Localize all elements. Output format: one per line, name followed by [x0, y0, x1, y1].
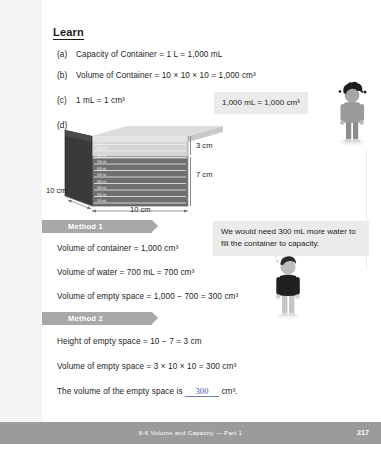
learn-item-b-label: (b)	[57, 71, 76, 80]
method-2-banner: Method 2	[42, 312, 152, 325]
equivalence-callout: 1,000 mL = 1,000 cm³	[214, 92, 308, 114]
answer-prefix: The volume of the empty space is	[57, 387, 183, 396]
svg-text:700 mL: 700 mL	[97, 160, 107, 164]
svg-text:500 mL: 500 mL	[97, 173, 107, 177]
learn-item-a-text: Capacity of Container = 1 L = 1,000 mL	[76, 50, 222, 59]
dimension-label-water-height: 7 cm	[196, 170, 212, 179]
footer-base	[0, 444, 381, 462]
svg-text:900 mL: 900 mL	[97, 147, 107, 151]
learn-item-c-text: 1 mL = 1 cm³	[76, 96, 125, 105]
method-1-line-2: Volume of water = 700 mL = 700 cm³	[57, 268, 194, 277]
dimension-label-depth: 10 cm	[46, 186, 67, 195]
method-2-line-1: Height of empty space = 10 − 7 = 3 cm	[57, 337, 202, 346]
learn-item-b: (b)Volume of Container = 10 × 10 × 10 = …	[57, 71, 256, 80]
svg-text:300 mL: 300 mL	[97, 186, 107, 190]
learn-item-c: (c)1 mL = 1 cm³	[57, 96, 125, 105]
dimension-label-empty-height: 3 cm	[196, 141, 212, 150]
svg-text:800 mL: 800 mL	[97, 154, 107, 158]
answer-suffix: cm³.	[221, 387, 237, 396]
student-figure-two	[268, 252, 308, 322]
svg-text:600 mL: 600 mL	[97, 167, 107, 171]
page-title: Learn	[53, 26, 84, 40]
brace-empty-space	[190, 136, 191, 155]
footer-text: 8-6 Volume and Capacity — Part 1	[0, 422, 381, 444]
method-2-answer-line: The volume of the empty space is 300 cm³…	[57, 387, 238, 397]
learn-item-b-text: Volume of Container = 10 × 10 × 10 = 1,0…	[76, 71, 256, 80]
page-number: 217	[357, 422, 369, 444]
learn-item-a-label: (a)	[57, 50, 76, 59]
brace-water	[190, 157, 191, 206]
svg-text:400 mL: 400 mL	[97, 180, 107, 184]
method-1-line-3: Volume of empty space = 1,000 − 700 = 30…	[57, 292, 238, 301]
svg-text:1 L: 1 L	[97, 141, 101, 145]
dimension-label-width: 10 cm	[130, 205, 151, 214]
answer-blank[interactable]: 300	[185, 387, 219, 397]
worksheet-page: Learn (a)Capacity of Container = 1 L = 1…	[0, 0, 381, 462]
method-1-line-1: Volume of container = 1,000 cm³	[57, 244, 178, 253]
page-left-margin	[0, 0, 42, 462]
learn-item-c-label: (c)	[57, 96, 76, 105]
svg-text:200 mL: 200 mL	[97, 193, 107, 197]
method-2-line-2: Volume of empty space = 3 × 10 × 10 = 30…	[57, 362, 236, 371]
learn-item-a: (a)Capacity of Container = 1 L = 1,000 m…	[57, 50, 222, 59]
more-water-callout: We would need 300 mL more water to fill …	[213, 221, 369, 256]
method-1-banner: Method 1	[42, 220, 152, 233]
student-figure-one	[332, 80, 372, 148]
